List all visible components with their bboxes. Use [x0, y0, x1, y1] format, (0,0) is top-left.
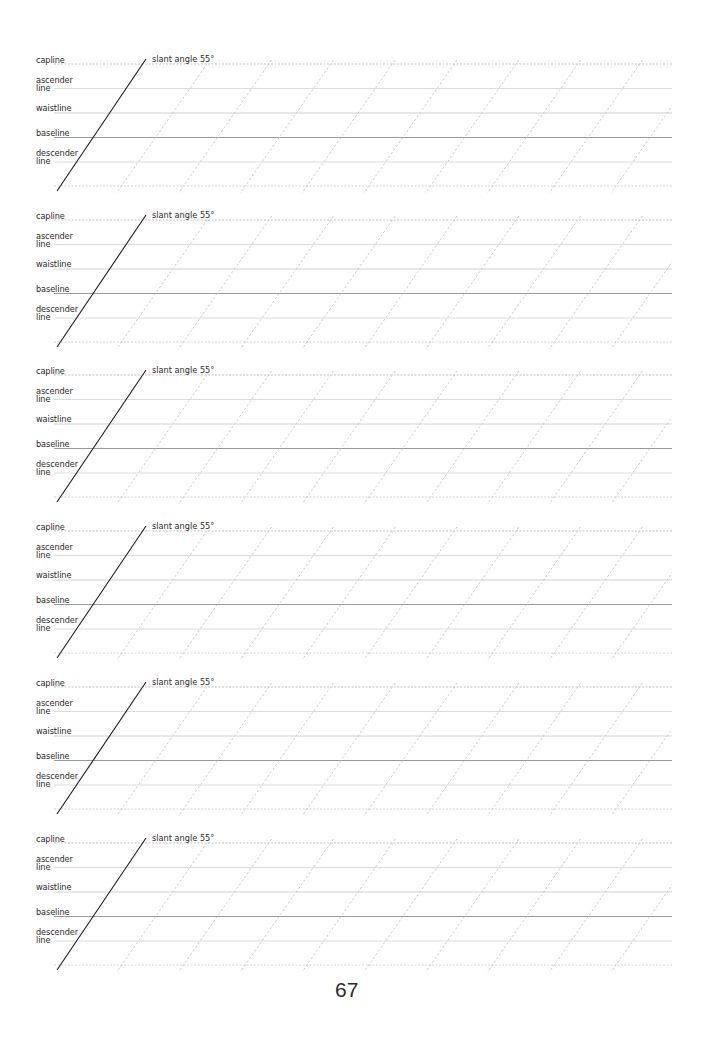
baseline-label: baseline: [36, 908, 70, 916]
dashed-slant-guides: [117, 527, 705, 660]
guide-lines-graphic: [0, 677, 710, 817]
dashed-slant-line: [302, 60, 395, 193]
dashed-slant-line: [364, 60, 457, 193]
dashed-slant-line: [178, 527, 271, 660]
ascender-line-label: ascender line: [36, 232, 73, 248]
dashed-slant-line: [302, 527, 395, 660]
calligraphy-practice-sheet: capline ascender line waistline baseline…: [0, 0, 710, 1041]
dashed-slant-line: [117, 839, 210, 972]
practice-block-6: capline ascender line waistline baseline…: [0, 833, 710, 973]
practice-block-1: capline ascender line waistline baseline…: [0, 54, 710, 194]
slant-angle-label: slant angle 55°: [152, 211, 214, 220]
slant-angle-label: slant angle 55°: [152, 678, 214, 687]
dashed-slant-line: [611, 527, 704, 660]
capline-label: capline: [36, 367, 65, 375]
slant-angle-label: slant angle 55°: [152, 834, 214, 843]
baseline-label: baseline: [36, 440, 70, 448]
dashed-slant-line: [240, 371, 333, 504]
page-number: 67: [335, 978, 358, 1002]
dashed-slant-line: [117, 216, 210, 349]
practice-block-4: capline ascender line waistline baseline…: [0, 521, 710, 661]
capline-label: capline: [36, 835, 65, 843]
dashed-slant-line: [611, 371, 704, 504]
dashed-slant-line: [302, 216, 395, 349]
dashed-slant-line: [549, 683, 642, 816]
guide-lines-graphic: [0, 833, 710, 973]
dashed-slant-line: [178, 216, 271, 349]
dashed-slant-line: [364, 839, 457, 972]
dashed-slant-line: [240, 216, 333, 349]
waistline-label: waistline: [36, 883, 71, 891]
dashed-slant-line: [426, 683, 519, 816]
dashed-slant-line: [426, 839, 519, 972]
slant-angle-label: slant angle 55°: [152, 366, 214, 375]
descender-line-label: descender line: [36, 772, 78, 788]
dashed-slant-line: [240, 527, 333, 660]
dashed-slant-line: [364, 371, 457, 504]
descender-line-label: descender line: [36, 928, 78, 944]
dashed-slant-line: [426, 60, 519, 193]
dashed-slant-line: [426, 527, 519, 660]
capline-label: capline: [36, 56, 65, 64]
dashed-slant-line: [302, 371, 395, 504]
dashed-slant-line: [611, 839, 704, 972]
dashed-slant-line: [611, 683, 704, 816]
ascender-line-label: ascender line: [36, 855, 73, 871]
dashed-slant-line: [117, 60, 210, 193]
dashed-slant-line: [240, 683, 333, 816]
dashed-slant-line: [549, 216, 642, 349]
slant-angle-label: slant angle 55°: [152, 55, 214, 64]
descender-line-label: descender line: [36, 616, 78, 632]
dashed-slant-line: [426, 216, 519, 349]
dashed-slant-line: [364, 216, 457, 349]
dashed-slant-line: [487, 683, 580, 816]
guide-lines-graphic: [0, 365, 710, 505]
dashed-slant-line: [487, 527, 580, 660]
dashed-slant-guides: [117, 216, 705, 349]
dashed-slant-line: [549, 527, 642, 660]
dashed-slant-line: [549, 60, 642, 193]
descender-line-label: descender line: [36, 305, 78, 321]
waistline-label: waistline: [36, 104, 71, 112]
ascender-line-label: ascender line: [36, 387, 73, 403]
dashed-slant-line: [178, 683, 271, 816]
waistline-label: waistline: [36, 415, 71, 423]
dashed-slant-line: [240, 60, 333, 193]
guide-lines-graphic: [0, 521, 710, 661]
dashed-slant-line: [487, 60, 580, 193]
dashed-slant-line: [178, 839, 271, 972]
dashed-slant-line: [240, 839, 333, 972]
descender-line-label: descender line: [36, 149, 78, 165]
dashed-slant-line: [487, 839, 580, 972]
baseline-label: baseline: [36, 752, 70, 760]
dashed-slant-line: [611, 216, 704, 349]
dashed-slant-line: [487, 371, 580, 504]
dashed-slant-line: [426, 371, 519, 504]
capline-label: capline: [36, 523, 65, 531]
descender-line-label: descender line: [36, 460, 78, 476]
waistline-label: waistline: [36, 260, 71, 268]
practice-block-3: capline ascender line waistline baseline…: [0, 365, 710, 505]
guide-lines-graphic: [0, 210, 710, 350]
dashed-slant-guides: [117, 839, 705, 972]
dashed-slant-guides: [117, 371, 705, 504]
dashed-slant-line: [611, 60, 704, 193]
dashed-slant-line: [117, 527, 210, 660]
dashed-slant-line: [549, 371, 642, 504]
dashed-slant-line: [178, 371, 271, 504]
practice-block-5: capline ascender line waistline baseline…: [0, 677, 710, 817]
baseline-label: baseline: [36, 129, 70, 137]
dashed-slant-line: [487, 216, 580, 349]
waistline-label: waistline: [36, 571, 71, 579]
dashed-slant-line: [302, 683, 395, 816]
slant-angle-label: slant angle 55°: [152, 522, 214, 531]
baseline-label: baseline: [36, 596, 70, 604]
dashed-slant-line: [302, 839, 395, 972]
dashed-slant-line: [549, 839, 642, 972]
dashed-slant-guides: [117, 683, 705, 816]
ascender-line-label: ascender line: [36, 76, 73, 92]
waistline-label: waistline: [36, 727, 71, 735]
ascender-line-label: ascender line: [36, 543, 73, 559]
dashed-slant-line: [364, 683, 457, 816]
baseline-label: baseline: [36, 285, 70, 293]
